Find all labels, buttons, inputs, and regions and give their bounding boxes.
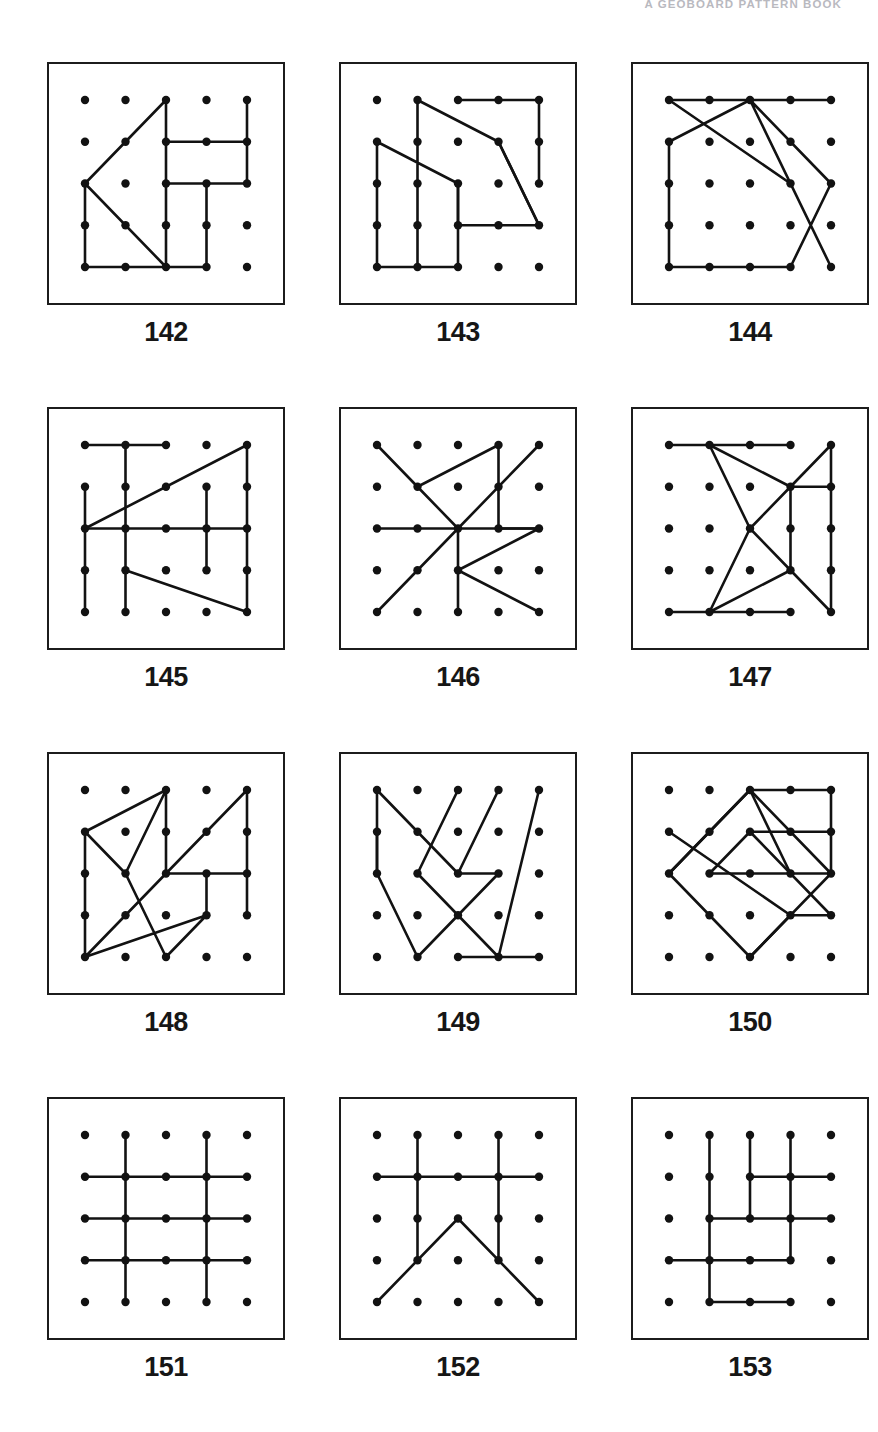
- geoboard-dot: [494, 524, 502, 532]
- geoboard-dot: [121, 483, 129, 491]
- geoboard-dot: [81, 221, 89, 229]
- geoboard-dot: [373, 828, 381, 836]
- geoboard-frame: [631, 62, 869, 305]
- geoboard-dot: [413, 1173, 421, 1181]
- geoboard-dot: [243, 1173, 251, 1181]
- geoboard-dot: [705, 566, 713, 574]
- geoboard-dot: [535, 1173, 543, 1181]
- plate-caption: 145: [47, 664, 285, 691]
- geoboard-dot: [121, 566, 129, 574]
- geoboard-dot: [454, 1256, 462, 1264]
- geoboard-dot: [705, 263, 713, 271]
- figure-path: [166, 100, 247, 142]
- geoboard-dot: [373, 221, 381, 229]
- geoboard-dot: [494, 179, 502, 187]
- dot-grid: [665, 96, 835, 271]
- figure-path: [418, 790, 459, 874]
- geoboard-dot: [494, 441, 502, 449]
- geoboard-dot: [786, 911, 794, 919]
- geoboard-dot: [202, 786, 210, 794]
- geoboard-dot: [373, 1173, 381, 1181]
- geoboard-dot: [373, 869, 381, 877]
- geoboard-canvas: [49, 754, 283, 993]
- geoboard-dot: [243, 1214, 251, 1222]
- geoboard-dot: [746, 608, 754, 616]
- geoboard-dot: [535, 608, 543, 616]
- geoboard-dot: [81, 911, 89, 919]
- geoboard-frame: [339, 752, 577, 995]
- geoboard-dot: [665, 1256, 673, 1264]
- geoboard-dot: [535, 441, 543, 449]
- geoboard-canvas: [633, 64, 867, 303]
- geoboard-dot: [202, 828, 210, 836]
- geoboard-dot: [827, 96, 835, 104]
- geoboard-dot: [81, 608, 89, 616]
- geoboard-dot: [665, 221, 673, 229]
- geoboard-canvas: [633, 1099, 867, 1338]
- geoboard-dot: [413, 263, 421, 271]
- geoboard-dot: [535, 786, 543, 794]
- geoboard-dot: [746, 1256, 754, 1264]
- geoboard-dot: [535, 138, 543, 146]
- geoboard-dot: [202, 869, 210, 877]
- geoboard-dot: [454, 911, 462, 919]
- geoboard-dot: [162, 566, 170, 574]
- geoboard-frame: [47, 62, 285, 305]
- geoboard-frame: [339, 1097, 577, 1340]
- geoboard-dot: [454, 1214, 462, 1222]
- geoboard-dot: [202, 1256, 210, 1264]
- geoboard-frame: [339, 62, 577, 305]
- geoboard-canvas: [341, 754, 575, 993]
- geoboard-dot: [494, 1214, 502, 1222]
- geoboard-dot: [202, 179, 210, 187]
- geoboard-dot: [454, 608, 462, 616]
- geoboard-dot: [786, 441, 794, 449]
- geoboard-dot: [746, 221, 754, 229]
- geoboard-dot: [535, 828, 543, 836]
- geoboard-dot: [243, 221, 251, 229]
- geoboard-dot: [373, 1214, 381, 1222]
- geoboard-dot: [373, 786, 381, 794]
- geoboard-dot: [243, 179, 251, 187]
- geoboard-dot: [243, 263, 251, 271]
- geoboard-dot: [121, 608, 129, 616]
- geoboard-dot: [746, 96, 754, 104]
- geoboard-dot: [494, 221, 502, 229]
- geoboard-dot: [162, 1131, 170, 1139]
- geoboard-dot: [786, 608, 794, 616]
- geoboard-dot: [454, 221, 462, 229]
- geoboard-dot: [81, 138, 89, 146]
- geoboard-dot: [665, 96, 673, 104]
- geoboard-dot: [786, 96, 794, 104]
- geoboard-dot: [827, 483, 835, 491]
- geoboard-dot: [81, 786, 89, 794]
- plate-caption: 147: [631, 664, 869, 691]
- geoboard-dot: [494, 566, 502, 574]
- geoboard-dot: [202, 911, 210, 919]
- geoboard-dot: [81, 1214, 89, 1222]
- geoboard-dot: [786, 1214, 794, 1222]
- geoboard-dot: [121, 96, 129, 104]
- geoboard-dot: [746, 138, 754, 146]
- plate-caption: 142: [47, 319, 285, 346]
- geoboard-dot: [202, 441, 210, 449]
- geoboard-dot: [705, 953, 713, 961]
- geoboard-plate: 143: [339, 62, 577, 407]
- geoboard-dot: [162, 441, 170, 449]
- geoboard-dot: [705, 524, 713, 532]
- geoboard-dot: [413, 608, 421, 616]
- geoboard-dot: [746, 524, 754, 532]
- plate-caption: 143: [339, 319, 577, 346]
- geoboard-dot: [786, 566, 794, 574]
- geoboard-dot: [786, 221, 794, 229]
- geoboard-dot: [121, 1256, 129, 1264]
- figure-path: [418, 487, 540, 612]
- geoboard-dot: [202, 608, 210, 616]
- geoboard-dot: [746, 179, 754, 187]
- geoboard-plate: 147: [631, 407, 869, 752]
- geoboard-frame: [47, 407, 285, 650]
- geoboard-dot: [81, 1298, 89, 1306]
- geoboard-dot: [121, 786, 129, 794]
- geoboard-dot: [81, 96, 89, 104]
- geoboard-canvas: [341, 409, 575, 648]
